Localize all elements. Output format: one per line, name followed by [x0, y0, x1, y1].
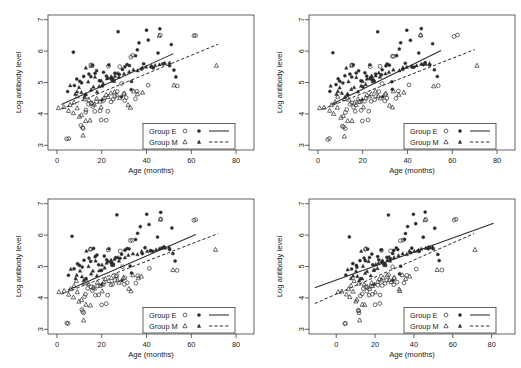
y-tick-label: 4	[296, 296, 305, 300]
data-point-group-m-open	[171, 268, 175, 272]
data-point-group-m-filled	[91, 269, 94, 272]
data-point-group-m-filled	[158, 63, 161, 66]
data-point-group-e-open	[175, 268, 179, 272]
y-tick-label: 6	[296, 233, 305, 237]
data-point-group-e-filled	[145, 29, 148, 32]
data-point-group-e-filled	[343, 74, 346, 77]
data-point-group-e-filled	[423, 211, 426, 214]
data-point-group-e-filled	[380, 68, 383, 71]
y-axis-title: Log antibody level	[275, 52, 284, 114]
data-point-group-e-filled	[414, 222, 417, 225]
data-point-group-m-filled	[80, 90, 83, 93]
data-point-group-e-filled	[410, 247, 413, 250]
y-tick-label: 5	[36, 80, 45, 84]
x-tick-label: 0	[55, 156, 59, 165]
data-point-group-m-open	[350, 289, 354, 293]
data-point-group-e-filled	[368, 63, 371, 66]
data-point-group-e-filled	[134, 238, 137, 241]
data-point-group-e-filled	[433, 227, 436, 230]
data-point-group-m-open	[331, 111, 335, 115]
data-point-group-e-filled	[73, 84, 76, 87]
x-tick-label: 60	[448, 340, 456, 349]
data-point-group-e-filled	[137, 41, 140, 44]
data-point-group-e-filled	[331, 51, 334, 54]
data-point-group-e-filled	[377, 258, 380, 261]
data-point-group-e-filled	[348, 73, 351, 76]
data-point-group-m-open	[79, 113, 83, 117]
data-point-group-m-filled	[168, 61, 171, 64]
data-point-group-m-filled	[337, 86, 340, 89]
data-point-group-m-filled	[69, 267, 72, 270]
data-point-group-m-open	[122, 91, 126, 95]
data-point-group-m-filled	[345, 268, 348, 271]
data-point-group-e-filled	[357, 69, 360, 72]
data-point-group-m-filled	[154, 248, 157, 251]
data-point-group-m-open	[66, 108, 70, 112]
data-point-group-m-open	[345, 118, 349, 122]
data-point-group-e-filled	[347, 235, 350, 238]
data-point-group-m-filled	[100, 98, 103, 101]
data-point-group-m-open	[71, 295, 75, 299]
legend-label-group-m: Group M	[149, 138, 178, 147]
y-tick-label: 3	[296, 143, 305, 147]
data-point-group-e-filled	[115, 213, 118, 216]
data-point-group-e-open	[407, 83, 411, 87]
x-axis-title: Age (months)	[389, 350, 435, 359]
data-point-group-m-filled	[75, 90, 78, 93]
data-point-group-e-filled	[147, 39, 150, 42]
data-point-group-e-filled	[421, 236, 424, 239]
data-point-group-e-open	[104, 118, 108, 122]
data-point-group-m-filled	[92, 85, 95, 88]
data-point-group-m-open	[435, 267, 439, 271]
data-point-group-m-open	[369, 92, 373, 96]
data-point-group-e-filled	[127, 247, 130, 250]
x-axis-title: Age (months)	[128, 350, 174, 359]
data-point-group-m-filled	[69, 84, 72, 87]
y-tick-label: 7	[36, 202, 45, 206]
data-point-group-m-open	[140, 90, 144, 94]
data-point-group-e-open	[106, 293, 110, 297]
x-tick-label: 60	[448, 156, 456, 165]
data-point-group-m-filled	[127, 253, 130, 256]
data-point-group-m-filled	[74, 276, 77, 279]
data-point-group-m-open	[75, 290, 79, 294]
data-point-group-e-filled	[417, 51, 420, 54]
data-point-group-m-open	[373, 290, 377, 294]
legend-filled-circle-icon	[197, 129, 200, 132]
y-tick-label: 4	[36, 296, 45, 300]
x-tick-label: 20	[98, 156, 106, 165]
data-point-group-m-filled	[136, 252, 139, 255]
data-point-group-e-open	[147, 267, 151, 271]
x-axis-title: Age (months)	[389, 166, 435, 175]
x-tick-label: 40	[403, 156, 411, 165]
y-axis-title: Log antibody level	[275, 236, 284, 298]
x-tick-label: 20	[358, 156, 366, 165]
data-point-group-e-filled	[156, 51, 159, 54]
data-point-group-e-filled	[397, 47, 400, 50]
data-point-group-m-filled	[131, 252, 134, 255]
data-point-group-m-open	[335, 105, 339, 109]
data-point-group-m-filled	[359, 249, 362, 252]
data-point-group-e-filled	[376, 255, 379, 258]
data-point-group-e-open	[118, 65, 122, 69]
data-point-group-e-open	[373, 303, 377, 307]
data-point-group-e-open	[395, 280, 399, 284]
data-point-group-e-filled	[334, 83, 337, 86]
data-point-group-e-filled	[355, 266, 358, 269]
data-point-group-e-filled	[363, 259, 366, 262]
legend-label-group-e: Group E	[410, 311, 438, 320]
data-point-group-m-filled	[123, 256, 126, 259]
y-tick-label: 5	[296, 80, 305, 84]
y-tick-label: 7	[296, 18, 305, 22]
data-point-group-e-filled	[376, 30, 379, 33]
data-point-group-m-filled	[427, 62, 430, 65]
data-point-group-m-filled	[377, 71, 380, 74]
data-point-group-e-open	[134, 97, 138, 101]
data-point-group-e-filled	[80, 81, 83, 84]
data-point-group-e-open	[146, 83, 150, 87]
legend-label-group-e: Group E	[149, 127, 177, 136]
panel-top-left: 34567020406080Age (months)Log antibody l…	[0, 0, 261, 184]
data-point-group-m-open	[363, 246, 367, 250]
data-point-group-e-filled	[102, 71, 105, 74]
data-point-group-e-filled	[419, 27, 422, 30]
